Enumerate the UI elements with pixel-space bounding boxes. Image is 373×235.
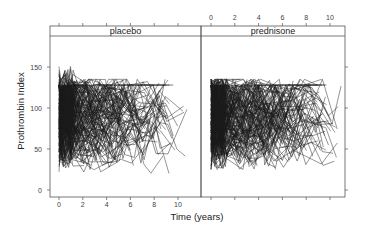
x-tick-label: 2 [233,14,237,21]
strip-label-prednisone: prednisone [251,26,296,36]
x-tick-label: 8 [304,14,308,21]
x-axis-top: 0 2 4 6 8 10 [209,14,334,21]
y-tick-label: 150 [30,64,42,71]
prednisone-panel-lines [211,79,341,169]
y-tick-label: 50 [34,146,42,153]
x-tick-label: 0 [57,201,61,208]
x-tick-label: 4 [257,14,261,21]
x-axis-bottom: 0 2 4 6 8 10 [57,201,182,208]
x-tick-label: 10 [174,201,182,208]
x-tick-label: 2 [81,201,85,208]
x-tick-label: 6 [128,201,132,208]
strip-label-placebo: placebo [110,26,142,36]
x-tick-label: 10 [326,14,334,21]
placebo-panel-lines [59,67,187,174]
trellis-chart: placebo prednisone 0 50 100 150 0 2 4 6 … [0,0,373,235]
y-axis-title: Prothrombin Index [15,72,26,150]
x-tick-label: 4 [105,201,109,208]
x-tick-label: 0 [209,14,213,21]
y-axis: 0 50 100 150 [30,64,42,194]
x-axis-title: Time (years) [171,211,224,222]
y-tick-label: 100 [30,105,42,112]
x-tick-label: 6 [280,14,284,21]
x-tick-label: 8 [152,201,156,208]
y-tick-label: 0 [38,187,42,194]
